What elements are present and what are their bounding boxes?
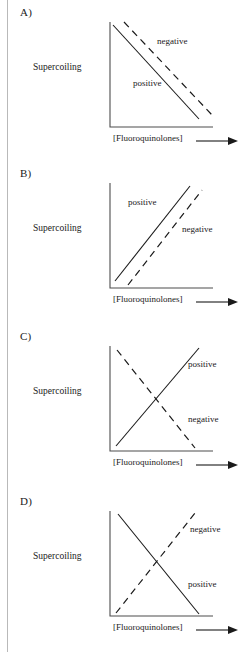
panel-b-axes: [110, 183, 213, 288]
panel-c-x-axis-label: [Fluoroquinolones]: [113, 457, 183, 467]
panel-d-label-negative: negative: [190, 524, 221, 534]
figure-container: A) Supercoiling positive negative [Fluor…: [0, 0, 248, 652]
panel-d-solid-line-positive: [118, 514, 199, 614]
panel-a-label-positive: positive: [133, 78, 162, 88]
panel-c-dashed-line-negative: [117, 350, 195, 448]
panel-c: C) Supercoiling positive negative [Fluor…: [0, 324, 248, 484]
right-arrow-icon: [228, 298, 238, 306]
panel-c-label-negative: negative: [188, 414, 219, 424]
panel-c-solid-line-positive: [116, 348, 199, 446]
panel-d-x-axis-label: [Fluoroquinolones]: [113, 622, 183, 632]
panel-c-label-positive: positive: [188, 359, 217, 369]
panel-d: D) Supercoiling positive negative [Fluor…: [0, 489, 248, 649]
panel-d-label-positive: positive: [188, 579, 217, 589]
panel-a-x-axis-label: [Fluoroquinolones]: [113, 133, 183, 143]
panel-a-label-negative: negative: [157, 36, 188, 46]
panel-d-dashed-line-negative: [116, 513, 195, 613]
right-arrow-icon: [228, 626, 238, 634]
right-arrow-icon: [228, 137, 238, 145]
panel-b: B) Supercoiling positive negative [Fluor…: [0, 161, 248, 321]
panel-a: A) Supercoiling positive negative [Fluor…: [0, 0, 248, 160]
panel-b-x-axis-label: [Fluoroquinolones]: [113, 294, 183, 304]
panel-b-label-negative: negative: [182, 224, 213, 234]
panel-b-label-positive: positive: [128, 197, 157, 207]
right-arrow-icon: [228, 461, 238, 469]
